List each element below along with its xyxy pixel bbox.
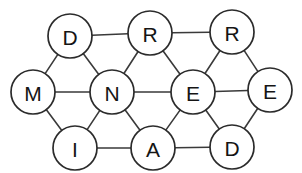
- graph-node-e1[interactable]: E: [171, 70, 215, 114]
- graph-node-m1[interactable]: M: [11, 70, 55, 114]
- graph-edge-d2-e2: [244, 108, 258, 128]
- graph-node-n1[interactable]: N: [90, 70, 134, 114]
- node-label: M: [24, 82, 42, 105]
- graph-node-r1[interactable]: R: [128, 11, 172, 55]
- node-layer: DRRMNEEIAD: [11, 10, 292, 170]
- graph-node-d1[interactable]: D: [48, 14, 92, 58]
- graph-edge-d1-n1: [83, 54, 99, 75]
- graph-edge-r2-e1: [205, 50, 220, 73]
- graph-node-a1[interactable]: A: [131, 126, 175, 170]
- graph-edge-d1-r1: [92, 34, 128, 35]
- graph-edge-n1-a1: [125, 110, 140, 131]
- diagram-canvas: DRRMNEEIAD: [0, 0, 302, 173]
- node-label: D: [62, 26, 77, 49]
- node-label: I: [72, 138, 78, 161]
- node-label: R: [224, 22, 239, 45]
- node-label: E: [263, 80, 277, 103]
- graph-edge-e1-e2: [215, 91, 248, 92]
- graph-edge-e1-a1: [166, 110, 180, 130]
- graph-edge-m1-i1: [46, 110, 62, 131]
- graph-edge-e1-d2: [206, 110, 220, 129]
- node-label: R: [142, 23, 157, 46]
- graph-node-r2[interactable]: R: [210, 10, 254, 54]
- graph-edge-r1-n1: [124, 52, 138, 74]
- graph-edge-n1-i1: [87, 110, 100, 129]
- graph-edge-r1-e1: [163, 51, 180, 74]
- graph-node-d2[interactable]: D: [210, 125, 254, 169]
- graph-figure: DRRMNEEIAD: [0, 0, 302, 173]
- graph-edge-d1-m1: [45, 54, 58, 73]
- graph-node-i1[interactable]: I: [53, 126, 97, 170]
- node-label: A: [146, 138, 160, 161]
- node-label: E: [186, 82, 200, 105]
- node-label: N: [104, 82, 119, 105]
- graph-edge-r2-e2: [244, 50, 258, 71]
- graph-node-e2[interactable]: E: [248, 68, 292, 112]
- node-label: D: [224, 137, 239, 160]
